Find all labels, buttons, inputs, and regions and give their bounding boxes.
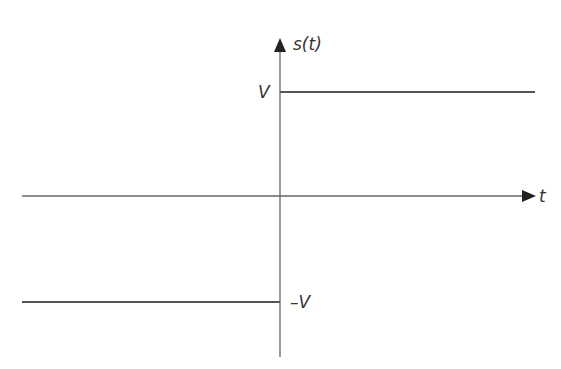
signal-diagram: s(t) t V –V: [0, 0, 561, 369]
t-axis-arrow-icon: [522, 190, 536, 202]
low-level-label: –V: [290, 292, 312, 312]
s-axis-arrow-icon: [274, 38, 286, 52]
y-axis-label: s(t): [293, 34, 322, 54]
high-level-label: V: [258, 82, 271, 102]
x-axis-label: t: [539, 186, 547, 206]
